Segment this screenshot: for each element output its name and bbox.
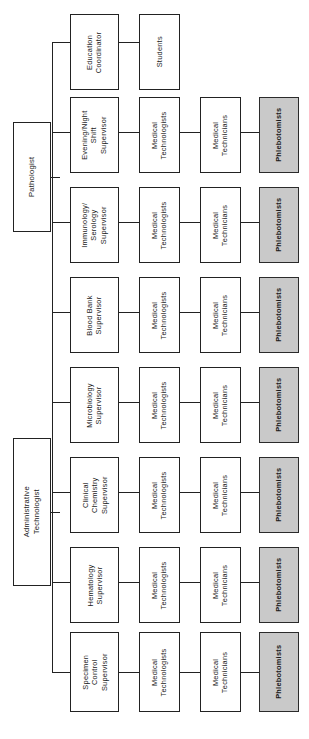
connector-level2-8-to-level3 xyxy=(180,672,200,673)
node-level3-6-label: Medical Technicians xyxy=(211,474,230,515)
node-supervisor-7-label: Hematology Supervisor xyxy=(85,564,104,606)
connector-supervisor-4-to-level2 xyxy=(119,312,139,313)
node-supervisor-5-label: Microbiology Supervisor xyxy=(85,383,104,428)
node-level3-2-label: Medical Technicians xyxy=(211,114,230,155)
connector-level3-7-to-level4 xyxy=(241,582,259,583)
node-administrative-technologist[interactable]: Administrative Technologist xyxy=(13,438,51,586)
node-supervisor-2-label: Evening/Night Shift Supervisor xyxy=(80,110,108,159)
connector-trunk-to-supervisor-6 xyxy=(52,492,70,493)
connector-supervisor-1-to-level2 xyxy=(119,42,139,43)
node-level3-8-label: Medical Technicians xyxy=(211,651,230,692)
node-level2-1[interactable]: Students xyxy=(139,14,180,90)
node-level2-7[interactable]: Medical Technologists xyxy=(139,547,180,623)
node-level3-4-label: Medical Technicians xyxy=(211,294,230,335)
node-level2-3-label: Medical Technologists xyxy=(150,201,169,249)
node-level4-8-label: Phlebotomists xyxy=(274,645,283,699)
node-level2-7-label: Medical Technologists xyxy=(150,561,169,609)
node-supervisor-1-label: Education Coordinator xyxy=(85,31,104,72)
node-level4-2[interactable]: Phlebotomists xyxy=(259,97,299,173)
node-level2-8-label: Medical Technologists xyxy=(150,648,169,696)
connector-level2-6-to-level3 xyxy=(180,492,200,493)
node-level4-6[interactable]: Phlebotomists xyxy=(259,457,299,533)
org-chart: Pathologist Administrative Technologist … xyxy=(0,0,309,739)
node-level4-4-label: Phlebotomists xyxy=(274,288,283,342)
node-level2-4-label: Medical Technologists xyxy=(150,291,169,339)
node-level4-7[interactable]: Phlebotomists xyxy=(259,547,299,623)
node-level2-1-label: Students xyxy=(155,36,164,67)
node-level3-6[interactable]: Medical Technicians xyxy=(200,457,241,533)
connector-level3-4-to-level4 xyxy=(241,312,259,313)
node-level2-5[interactable]: Medical Technologists xyxy=(139,367,180,443)
node-level3-2[interactable]: Medical Technicians xyxy=(200,97,241,173)
node-supervisor-3[interactable]: Immunology/ Serology Supervisor xyxy=(70,187,119,263)
node-pathologist[interactable]: Pathologist xyxy=(13,122,51,232)
connector-level2-3-to-level3 xyxy=(180,222,200,223)
connector-trunk-to-supervisor-1 xyxy=(52,42,70,43)
node-supervisor-6[interactable]: Clinical Chemistry Supervisor xyxy=(70,457,119,533)
connector-supervisor-7-to-level2 xyxy=(119,582,139,583)
node-supervisor-4[interactable]: Blood Bank Supervisor xyxy=(70,277,119,353)
node-level4-6-label: Phlebotomists xyxy=(274,468,283,522)
node-level3-8[interactable]: Medical Technicians xyxy=(200,632,241,712)
node-level2-2[interactable]: Medical Technologists xyxy=(139,97,180,173)
connector-supervisor-6-to-level2 xyxy=(119,492,139,493)
connector-trunk-to-supervisor-5 xyxy=(52,402,70,403)
node-supervisor-8[interactable]: Specimen Control Supervisor xyxy=(70,632,119,712)
node-level2-6-label: Medical Technologists xyxy=(150,471,169,519)
connector-level3-6-to-level4 xyxy=(241,492,259,493)
node-level4-5[interactable]: Phlebotomists xyxy=(259,367,299,443)
connector-level2-5-to-level3 xyxy=(180,402,200,403)
connector-level3-8-to-level4 xyxy=(241,672,259,673)
node-supervisor-7[interactable]: Hematology Supervisor xyxy=(70,547,119,623)
node-level3-3-label: Medical Technicians xyxy=(211,204,230,245)
node-administrative-technologist-label: Administrative Technologist xyxy=(22,486,41,537)
node-level2-8[interactable]: Medical Technologists xyxy=(139,632,180,712)
connector-level2-2-to-level3 xyxy=(180,132,200,133)
connector-level3-3-to-level4 xyxy=(241,222,259,223)
connector-supervisor-8-to-level2 xyxy=(119,672,139,673)
connector-level3-5-to-level4 xyxy=(241,402,259,403)
node-level2-4[interactable]: Medical Technologists xyxy=(139,277,180,353)
node-level4-5-label: Phlebotomists xyxy=(274,378,283,432)
node-level2-6[interactable]: Medical Technologists xyxy=(139,457,180,533)
node-supervisor-4-label: Blood Bank Supervisor xyxy=(85,295,104,335)
node-supervisor-6-label: Clinical Chemistry Supervisor xyxy=(80,476,108,514)
node-supervisor-5[interactable]: Microbiology Supervisor xyxy=(70,367,119,443)
node-level2-3[interactable]: Medical Technologists xyxy=(139,187,180,263)
connector-trunk-to-supervisor-4 xyxy=(52,312,70,313)
connector-trunk-to-supervisor-8 xyxy=(52,672,70,673)
node-supervisor-8-label: Specimen Control Supervisor xyxy=(80,653,108,691)
node-level3-4[interactable]: Medical Technicians xyxy=(200,277,241,353)
connector-trunk-to-supervisor-7 xyxy=(52,582,70,583)
node-level4-2-label: Phlebotomists xyxy=(274,108,283,162)
node-level4-3-label: Phlebotomists xyxy=(274,198,283,252)
connector-supervisor-2-to-level2 xyxy=(119,132,139,133)
connector-pathologist-to-trunk xyxy=(51,177,60,178)
node-level3-3[interactable]: Medical Technicians xyxy=(200,187,241,263)
connector-supervisor-5-to-level2 xyxy=(119,402,139,403)
node-level3-7-label: Medical Technicians xyxy=(211,564,230,605)
node-pathologist-label: Pathologist xyxy=(27,157,37,197)
connector-level2-7-to-level3 xyxy=(180,582,200,583)
connector-admin-technologist-to-trunk xyxy=(51,512,60,513)
connector-level2-4-to-level3 xyxy=(180,312,200,313)
node-supervisor-1[interactable]: Education Coordinator xyxy=(70,14,119,90)
connector-supervisor-3-to-level2 xyxy=(119,222,139,223)
node-level4-8[interactable]: Phlebotomists xyxy=(259,632,299,712)
node-level3-5[interactable]: Medical Technicians xyxy=(200,367,241,443)
node-level3-7[interactable]: Medical Technicians xyxy=(200,547,241,623)
connector-level3-2-to-level4 xyxy=(241,132,259,133)
node-level2-5-label: Medical Technologists xyxy=(150,381,169,429)
node-level4-7-label: Phlebotomists xyxy=(274,558,283,612)
node-supervisor-2[interactable]: Evening/Night Shift Supervisor xyxy=(70,97,119,173)
node-level3-5-label: Medical Technicians xyxy=(211,384,230,425)
connector-trunk-to-supervisor-3 xyxy=(52,222,70,223)
trunk-vertical-line xyxy=(52,42,53,673)
node-level2-2-label: Medical Technologists xyxy=(150,111,169,159)
node-level4-4[interactable]: Phlebotomists xyxy=(259,277,299,353)
node-supervisor-3-label: Immunology/ Serology Supervisor xyxy=(80,202,108,247)
connector-trunk-to-supervisor-2 xyxy=(52,132,70,133)
node-level4-3[interactable]: Phlebotomists xyxy=(259,187,299,263)
